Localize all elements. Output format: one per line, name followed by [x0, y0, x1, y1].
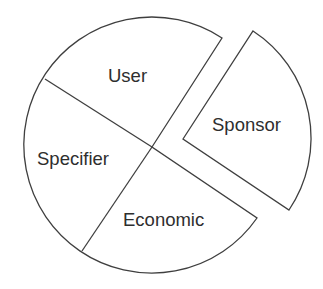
buyer-roles-pie-diagram: User Specifier Economic Sponsor [0, 0, 323, 289]
segment-label-specifier: Specifier [37, 148, 109, 169]
segment-label-economic: Economic [123, 209, 204, 230]
segment-label-sponsor: Sponsor [212, 114, 281, 135]
segment-label-user: User [108, 65, 147, 86]
